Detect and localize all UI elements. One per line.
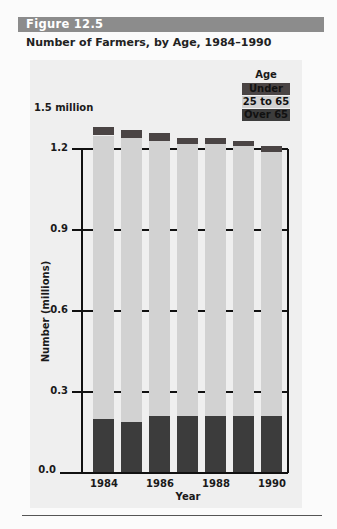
figure-title: Number of Farmers, by Age, 1984–1990 bbox=[26, 36, 271, 49]
bar-segment bbox=[149, 416, 170, 473]
x-tick: 1986 bbox=[140, 478, 180, 489]
figure-label: Figure 12.5 bbox=[26, 17, 103, 32]
x-tick: 1988 bbox=[196, 478, 236, 489]
right-frame-line bbox=[287, 149, 289, 473]
y-tick: 0.0 bbox=[26, 464, 56, 475]
x-axis-label: Year bbox=[168, 491, 208, 502]
legend-over-65: Over 65 bbox=[242, 109, 290, 121]
legend-under-25: Under 25 bbox=[242, 83, 290, 95]
y-tick: 0.3 bbox=[38, 385, 68, 396]
bar-segment bbox=[149, 141, 170, 416]
bar-segment bbox=[261, 416, 282, 473]
bar-segment bbox=[121, 422, 142, 473]
figure-header: Figure 12.5 bbox=[18, 17, 324, 32]
bar-segment bbox=[233, 141, 254, 146]
bar-segment bbox=[149, 133, 170, 141]
bar-segment bbox=[177, 138, 198, 143]
x-tick: 1990 bbox=[252, 478, 292, 489]
x-tick: 1984 bbox=[84, 478, 124, 489]
bar-segment bbox=[93, 136, 114, 420]
y-tick: 0.6 bbox=[38, 304, 68, 315]
y-axis-line bbox=[81, 149, 83, 473]
bar-segment bbox=[261, 152, 282, 417]
bar-segment bbox=[205, 138, 226, 143]
x-axis-line bbox=[60, 472, 288, 474]
bar-segment bbox=[121, 130, 142, 138]
bar-segment bbox=[233, 146, 254, 416]
bar-segment bbox=[177, 416, 198, 473]
legend-25-to-65: 25 to 65 bbox=[242, 96, 290, 108]
y-axis-unit-label: 1.5 million bbox=[34, 102, 93, 113]
y-tick: 0.9 bbox=[38, 223, 68, 234]
y-tick: 1.2 bbox=[38, 142, 68, 153]
bar-segment bbox=[93, 419, 114, 473]
bottom-rule bbox=[22, 515, 322, 516]
bar-segment bbox=[93, 127, 114, 135]
legend-title: Age bbox=[242, 69, 290, 80]
bar-segment bbox=[205, 144, 226, 417]
bar-segment bbox=[233, 416, 254, 473]
bar-segment bbox=[205, 416, 226, 473]
bar-segment bbox=[121, 138, 142, 422]
bar-segment bbox=[177, 144, 198, 417]
bar-segment bbox=[261, 146, 282, 151]
